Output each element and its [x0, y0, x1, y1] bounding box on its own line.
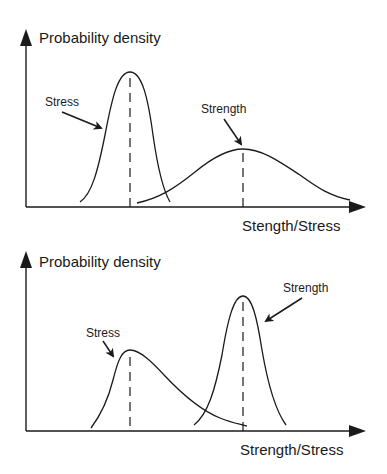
bottom-x-axis-label: Strength/Stress	[240, 441, 343, 458]
top-stress-curve	[80, 72, 170, 202]
top-x-axis-arrow-icon	[349, 201, 366, 213]
stress-strength-diagram: Probability density Stength/Stress Stres…	[0, 0, 387, 474]
bottom-x-axis-arrow-icon	[349, 425, 366, 437]
top-y-axis-arrow-icon	[20, 29, 32, 46]
top-stress-label: Stress	[45, 95, 79, 109]
top-x-axis-label: Stength/Stress	[242, 217, 340, 234]
bottom-y-axis-label: Probability density	[39, 253, 161, 270]
bottom-stress-curve	[91, 350, 247, 428]
top-strength-pointer-icon	[224, 119, 241, 144]
bottom-y-axis-arrow-icon	[20, 251, 32, 268]
top-strength-label: Strength	[201, 102, 246, 116]
bottom-diagram: Probability density Strength/Stress Stre…	[20, 251, 366, 458]
top-diagram: Probability density Stength/Stress Stres…	[20, 29, 366, 234]
bottom-stress-label: Stress	[86, 326, 120, 340]
top-stress-pointer-icon	[62, 112, 101, 128]
bottom-strength-pointer-icon	[266, 298, 302, 321]
bottom-stress-pointer-icon	[103, 341, 113, 356]
top-y-axis-label: Probability density	[39, 29, 161, 46]
bottom-strength-label: Strength	[283, 281, 328, 295]
bottom-strength-curve	[194, 296, 286, 425]
